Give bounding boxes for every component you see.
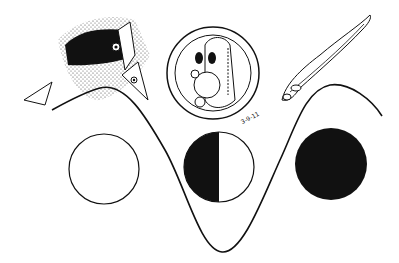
fish-pair-icon	[24, 17, 150, 105]
egg-icon	[167, 27, 259, 119]
larva-icon	[282, 15, 371, 100]
circle-filled	[295, 128, 367, 200]
figure-canvas: 3-9-11	[0, 0, 399, 263]
illustration-svg	[0, 0, 399, 263]
circle-empty	[69, 134, 139, 204]
circle-half-filled	[184, 132, 254, 202]
